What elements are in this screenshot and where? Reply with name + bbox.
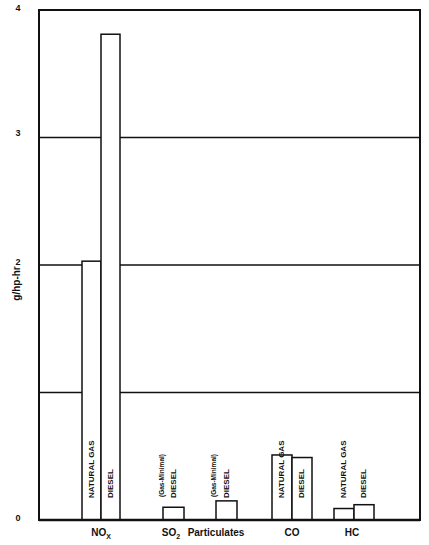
bar-label-ng-4: NATURAL GAS — [339, 440, 348, 498]
bar-label-ng-1: (Gas-Minimal) — [158, 454, 166, 497]
bar-label-diesel-1: DIESEL — [169, 469, 178, 498]
bar-diesel-hc — [354, 505, 374, 520]
bar-label-diesel-2: DIESEL — [222, 469, 231, 498]
plot-area: NATURAL GASDIESEL(Gas-Minimal)DIESEL(Gas… — [0, 0, 429, 545]
bar-diesel-nox — [101, 34, 120, 520]
bar-label-ng-0: NATURAL GAS — [87, 440, 96, 498]
y-tick-4: 4 — [8, 3, 28, 13]
y-tick-0: 0 — [8, 513, 28, 523]
bar-label-diesel-4: DIESEL — [359, 469, 368, 498]
bar-label-diesel-0: DIESEL — [106, 469, 115, 498]
bar-label-ng-2: (Gas-Minimal) — [210, 454, 218, 497]
bar-diesel-so2 — [163, 507, 184, 520]
x-category-nox: NOX — [61, 527, 141, 540]
bar-natural-gas-hc — [334, 509, 354, 520]
bar-diesel-particulates — [216, 501, 237, 520]
y-axis-label: g/hp-hr — [11, 254, 22, 314]
bar-label-diesel-3: DIESEL — [297, 469, 306, 498]
x-category-particulates: Particulates — [176, 527, 256, 538]
x-category-hc: HC — [312, 527, 392, 538]
bar-label-ng-3: NATURAL GAS — [277, 440, 286, 498]
emissions-bar-chart: NATURAL GASDIESEL(Gas-Minimal)DIESEL(Gas… — [0, 0, 429, 545]
y-tick-3: 3 — [8, 128, 28, 138]
